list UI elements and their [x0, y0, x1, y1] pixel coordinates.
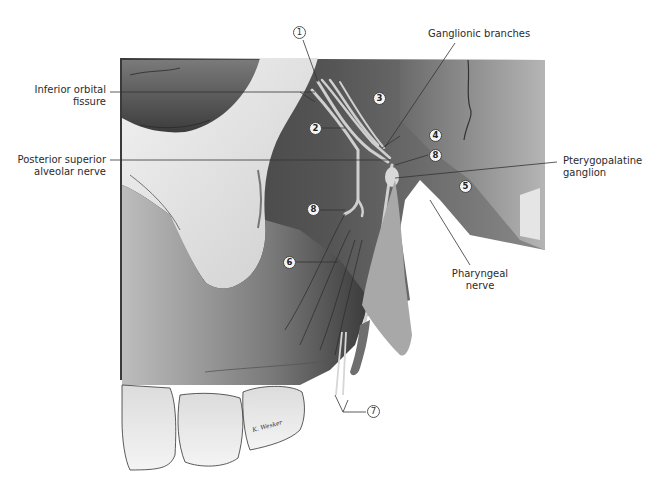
marker-4: 4: [429, 129, 442, 142]
label-line: Inferior orbital: [30, 84, 106, 96]
teeth: [122, 385, 304, 470]
tooth-2: [178, 393, 243, 466]
label-posterior-superior-alveolar-nerve: Posterior superior alveolar nerve: [12, 154, 106, 178]
label-line: fissure: [30, 96, 106, 108]
tooth-3: [243, 386, 305, 450]
anatomical-illustration: K. Wesker: [0, 0, 662, 485]
label-line: alveolar nerve: [12, 166, 106, 178]
marker-2: 2: [309, 122, 322, 135]
label-line: Ganglionic branches: [428, 28, 530, 39]
label-line: Posterior superior: [12, 154, 106, 166]
marker-1: 1: [293, 26, 306, 39]
label-line: ganglion: [563, 167, 642, 179]
label-ganglionic-branches: Ganglionic branches: [428, 28, 530, 40]
marker-8-lower: 8: [307, 203, 320, 216]
marker-7: 7: [367, 405, 380, 418]
label-line: Pharyngeal: [450, 268, 510, 280]
label-pharyngeal-nerve: Pharyngeal nerve: [450, 268, 510, 292]
marker-8-upper: 8: [429, 149, 442, 162]
label-pterygopalatine-ganglion: Pterygopalatine ganglion: [563, 155, 642, 179]
label-inferior-orbital-fissure: Inferior orbital fissure: [30, 84, 106, 108]
marker-6: 6: [283, 256, 296, 269]
label-line: Pterygopalatine: [563, 155, 642, 167]
tooth-1: [122, 385, 176, 470]
marker-3: 3: [373, 92, 386, 105]
label-line: nerve: [450, 280, 510, 292]
marker-5: 5: [459, 180, 472, 193]
pterygopalatine-ganglion-shape: [385, 167, 399, 187]
